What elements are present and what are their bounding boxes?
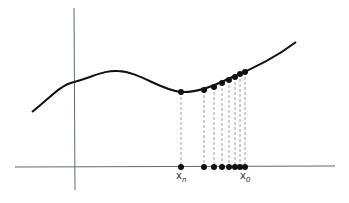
x-axis <box>15 166 335 167</box>
axis-point <box>211 164 217 170</box>
y-axis <box>74 8 75 190</box>
curve-point <box>219 80 225 86</box>
curve-point <box>232 74 238 80</box>
label-xn: xn <box>176 170 186 184</box>
axis-point <box>226 164 232 170</box>
axis-point <box>201 164 207 170</box>
iterate-points <box>178 69 248 170</box>
function-curve <box>32 42 296 112</box>
curve-point <box>211 84 217 90</box>
curve-point <box>178 89 184 95</box>
label-x0: x0 <box>240 170 250 184</box>
axis-point <box>219 164 225 170</box>
curve-point <box>201 87 207 93</box>
curve-point <box>226 77 232 83</box>
diagram-canvas <box>0 0 349 203</box>
curve-point <box>242 69 248 75</box>
